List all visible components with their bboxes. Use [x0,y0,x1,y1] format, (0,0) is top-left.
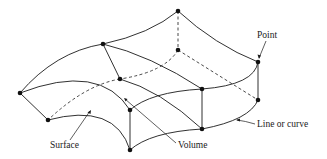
edge-curve [130,62,258,110]
vertex-point [128,108,133,113]
hidden-edge [48,79,120,120]
label-point: Point [257,31,277,41]
vertex-point [176,9,181,14]
edge-curve [103,44,202,89]
edge-line [103,44,120,79]
leader-volume [125,99,176,143]
vertex-point [118,77,123,82]
edge-curve [178,11,258,62]
vertex-point [101,42,106,47]
vertex-point [256,98,261,103]
geometry-diagram [0,0,327,159]
vertex-point [256,60,261,65]
label-volume: Volume [178,141,207,151]
edge-curve [120,79,202,129]
edge-curve [20,11,178,93]
edge-line [20,93,48,120]
label-line-or-curve: Line or curve [257,120,308,130]
label-surface: Surface [50,141,79,151]
vertex-point [128,148,133,153]
vertex-point [176,48,181,53]
vertex-point [200,127,205,132]
hidden-edge [178,50,258,100]
vertex-point [46,118,51,123]
edge-curve [20,81,130,110]
vertex-point [200,87,205,92]
vertex-point [18,91,23,96]
hidden-edge [120,50,178,79]
